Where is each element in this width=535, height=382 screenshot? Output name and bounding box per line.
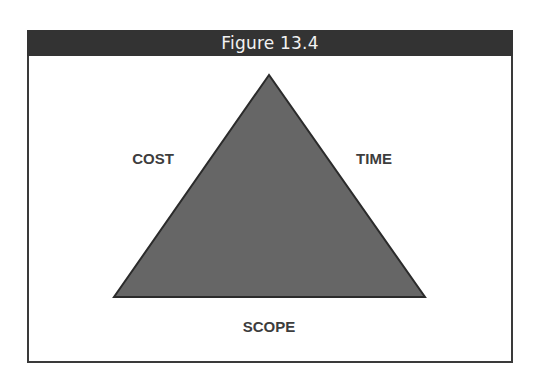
triangle-diagram: COST TIME SCOPE bbox=[0, 0, 535, 382]
label-time: TIME bbox=[356, 150, 392, 167]
triple-constraint-triangle bbox=[114, 75, 425, 297]
label-cost: COST bbox=[132, 150, 174, 167]
label-scope: SCOPE bbox=[243, 318, 296, 335]
